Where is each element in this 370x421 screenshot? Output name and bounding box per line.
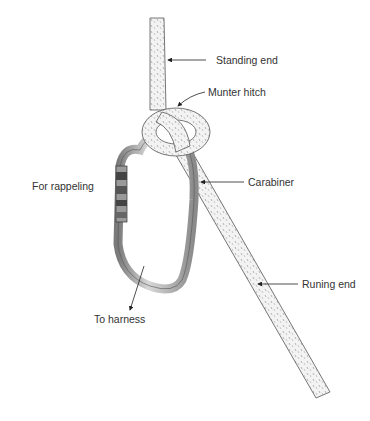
locking-gate-sleeve — [116, 166, 127, 222]
label-running-end: Runing end — [302, 278, 356, 290]
label-carabiner: Carabiner — [248, 176, 294, 188]
label-munter-hitch: Munter hitch — [208, 86, 266, 98]
label-for-rappeling: For rappeling — [32, 180, 94, 192]
standing-end-rope — [150, 18, 166, 110]
label-standing-end: Standing end — [216, 54, 278, 66]
diagram-illustration — [0, 0, 370, 421]
label-to-harness: To harness — [94, 313, 145, 325]
munter-hitch-knot — [142, 108, 210, 156]
munter-hitch-arrow — [178, 92, 205, 106]
